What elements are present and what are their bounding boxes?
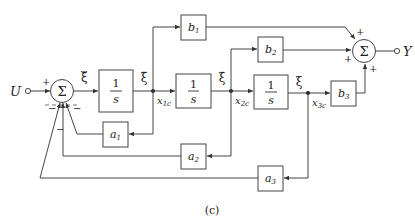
signal-xi-dot: ξ̇ — [219, 71, 226, 85]
gain-block-b2: b2 — [258, 37, 283, 62]
sum2-sign-b1: + — [356, 26, 364, 37]
svg-text:s: s — [191, 93, 197, 106]
block-diagram: U + Σ − − − ξ⃛ 1 s ξ̈ x1c 1 s ξ̇ x2c 1 s — [0, 0, 415, 224]
svg-text:1: 1 — [268, 79, 275, 92]
figure-caption: (c) — [205, 204, 220, 217]
svg-text:1: 1 — [113, 77, 120, 90]
wire-a3-to-sum1 — [40, 103, 258, 178]
output-terminal — [394, 48, 399, 53]
gain-block-b1: b1 — [181, 15, 206, 40]
sum2-sign-b2: + — [344, 53, 352, 64]
signal-x1c: x1c — [157, 95, 171, 108]
gain-block-a2: a2 — [181, 144, 206, 169]
integrator-block-2: 1 s — [176, 74, 211, 108]
svg-text:1: 1 — [190, 78, 197, 91]
integrator-block-3: 1 s — [254, 75, 288, 109]
signal-x3c: x3c — [312, 97, 326, 110]
signal-xi: ξ — [296, 75, 303, 89]
svg-text:s: s — [268, 94, 274, 107]
integrator-block-1: 1 s — [99, 70, 133, 112]
sigma-symbol: Σ — [57, 84, 66, 99]
sum1-sign-fb3: − — [48, 103, 56, 114]
gain-block-a3: a3 — [258, 166, 283, 191]
wire-x2c-to-b2 — [231, 49, 257, 91]
summing-junction-2: Σ — [353, 40, 376, 63]
input-label: U — [10, 84, 22, 99]
svg-text:s: s — [113, 93, 119, 106]
output-label: Y — [403, 44, 413, 59]
signal-xi-double-dot: ξ̈ — [141, 71, 148, 85]
signal-xi-triple-dot: ξ⃛ — [81, 70, 88, 85]
sum1-sign-fb1: − — [73, 103, 81, 114]
signal-x2c: x2c — [235, 95, 249, 108]
sum2-sign-b3: + — [369, 63, 377, 74]
sigma-symbol: Σ — [359, 44, 368, 59]
gain-block-b3: b3 — [331, 81, 356, 106]
wire-b3-to-sum2 — [356, 64, 365, 93]
input-terminal — [25, 88, 30, 93]
gain-block-a1: a1 — [103, 122, 128, 147]
sum1-sign-input: + — [42, 76, 50, 87]
summing-junction-1: Σ — [51, 80, 74, 103]
wire-a1-to-sum1 — [66, 103, 103, 134]
